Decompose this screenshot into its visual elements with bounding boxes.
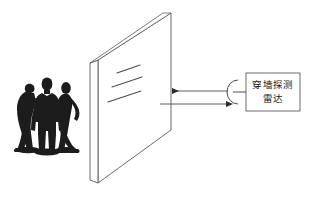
wall-slab: [90, 13, 171, 183]
wall-edge-face: [90, 60, 98, 183]
radar-label-line-2: 雷达: [263, 92, 284, 106]
radar-label-line-1: 穿墙探测: [252, 78, 294, 92]
person-center: [31, 77, 63, 153]
figure-canvas: 穿墙探测 雷达: [0, 0, 309, 202]
people-group: [14, 77, 80, 155]
wall-front-face: [98, 13, 171, 183]
radar-box-label: 穿墙探测 雷达: [246, 73, 300, 111]
antenna-arc-group: [227, 80, 246, 104]
